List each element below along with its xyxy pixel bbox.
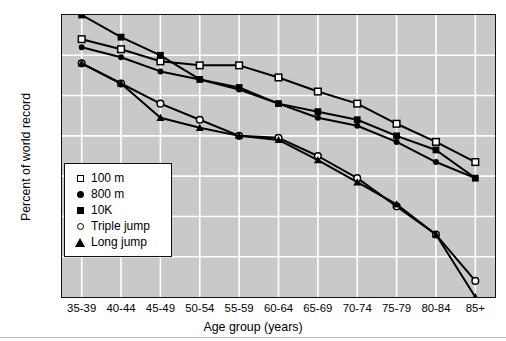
- legend-item-label: Triple jump: [91, 219, 150, 233]
- legend-item-100-m: 100 m: [73, 170, 164, 186]
- open-circle-icon: [73, 219, 87, 233]
- legend-item-label: 100 m: [91, 171, 124, 185]
- open-square-icon: [73, 171, 87, 185]
- filled-circle-icon: [73, 187, 87, 201]
- legend-item-label: 800 m: [91, 187, 124, 201]
- legend-item-10k: 10K: [73, 202, 164, 218]
- x-axis-label: Age group (years): [0, 320, 506, 334]
- x-tick-label: 85+: [446, 302, 504, 314]
- series-800-m: [79, 44, 479, 181]
- filled-square-icon: [73, 203, 87, 217]
- filled-triangle-icon: [73, 235, 87, 249]
- chart-figure: 10090807060504030 35-3940-4445-4950-5455…: [0, 0, 506, 341]
- legend-item-label: 10K: [91, 203, 112, 217]
- legend-item-label: Long jump: [91, 235, 147, 249]
- chart-legend: 100 m800 m10KTriple jumpLong jump: [64, 163, 172, 257]
- footer-divider: [0, 337, 506, 338]
- legend-item-triple-jump: Triple jump: [73, 218, 164, 234]
- legend-item-800-m: 800 m: [73, 186, 164, 202]
- y-axis-label: Percent of world record: [19, 57, 33, 257]
- legend-item-long-jump: Long jump: [73, 234, 164, 250]
